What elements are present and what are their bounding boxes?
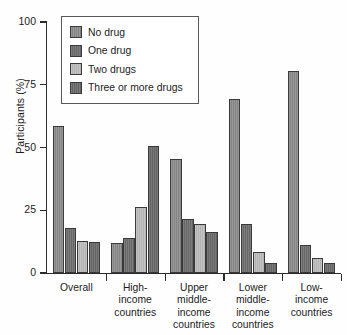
x-axis-separator-tick bbox=[106, 274, 107, 281]
bar bbox=[182, 219, 194, 273]
bar bbox=[53, 126, 65, 273]
bar bbox=[253, 252, 265, 273]
bar bbox=[300, 245, 312, 273]
legend-item: Three or more drugs bbox=[70, 79, 191, 98]
bar bbox=[148, 146, 160, 273]
bar bbox=[89, 242, 101, 273]
x-axis-tick-label: Low- income countries bbox=[276, 282, 347, 319]
bar bbox=[229, 99, 241, 273]
y-axis-title: Participants (%) bbox=[14, 26, 26, 206]
legend-swatch-icon bbox=[70, 82, 82, 94]
bar bbox=[206, 232, 218, 273]
legend-item-label: Two drugs bbox=[88, 64, 136, 75]
legend-item-label: No drug bbox=[88, 27, 125, 38]
x-axis-separator-tick bbox=[165, 274, 166, 281]
legend-item-label: Three or more drugs bbox=[88, 82, 183, 93]
bar bbox=[123, 238, 135, 273]
bar bbox=[111, 243, 123, 273]
bar bbox=[241, 224, 253, 273]
legend: No drugOne drugTwo drugsThree or more dr… bbox=[61, 16, 199, 104]
bar bbox=[65, 228, 77, 273]
y-axis-tick-label: 75 bbox=[0, 78, 36, 90]
legend-item-label: One drug bbox=[88, 45, 131, 56]
bar bbox=[312, 258, 324, 273]
bar bbox=[194, 224, 206, 273]
y-axis-tick-label: 25 bbox=[0, 203, 36, 215]
y-axis-tick-label: 100 bbox=[0, 15, 36, 27]
y-axis-tick bbox=[40, 21, 47, 22]
y-axis-tick-label: 50 bbox=[0, 141, 36, 153]
bar-group bbox=[288, 22, 336, 273]
legend-swatch-icon bbox=[70, 26, 82, 38]
x-axis-line bbox=[46, 273, 341, 274]
bar bbox=[170, 159, 182, 273]
bar bbox=[77, 241, 89, 273]
bar bbox=[135, 207, 147, 274]
legend-swatch-icon bbox=[70, 45, 82, 57]
bar-chart: Participants (%) 0255075100 OverallHigh-… bbox=[0, 0, 347, 335]
bar bbox=[265, 263, 277, 273]
bar bbox=[324, 263, 336, 273]
legend-item: No drug bbox=[70, 23, 191, 42]
legend-item: One drug bbox=[70, 42, 191, 61]
x-axis-separator-tick bbox=[282, 274, 283, 281]
bar-group bbox=[229, 22, 277, 273]
x-axis-separator-tick bbox=[223, 274, 224, 281]
legend-swatch-icon bbox=[70, 63, 82, 75]
y-axis-tick bbox=[40, 210, 47, 211]
y-axis-tick bbox=[40, 84, 47, 85]
x-axis-separator-tick bbox=[341, 274, 342, 281]
y-axis-tick bbox=[40, 147, 47, 148]
legend-item: Two drugs bbox=[70, 60, 191, 79]
bar bbox=[288, 71, 300, 273]
y-axis-tick-label: 0 bbox=[0, 266, 36, 278]
